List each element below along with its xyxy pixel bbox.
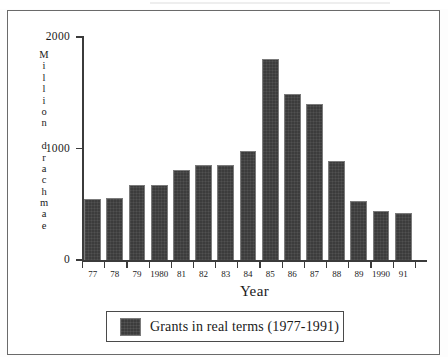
x-axis-tick	[348, 261, 349, 268]
x-axis-tick	[304, 261, 305, 268]
x-axis-tick	[393, 261, 394, 268]
bar-83	[217, 165, 234, 260]
bar-86	[284, 94, 301, 260]
x-axis-line	[82, 260, 427, 262]
bar-77	[84, 199, 101, 260]
x-axis-tick	[237, 261, 238, 268]
bar-88	[328, 161, 345, 260]
x-axis-tick-label-86: 86	[288, 270, 297, 279]
chart-legend: Grants in real terms (1977-1991)	[106, 311, 344, 342]
x-axis-tick-label-84: 84	[243, 270, 252, 279]
bar-89	[350, 201, 367, 260]
x-axis-tick-label-88: 88	[332, 270, 341, 279]
bar-81	[173, 170, 190, 260]
x-axis-tick-label-91: 91	[399, 270, 408, 279]
x-axis-tick-label-79: 79	[133, 270, 142, 279]
bar-series	[8, 11, 441, 356]
x-axis-tick	[326, 261, 327, 268]
bar-1980	[151, 185, 168, 260]
x-axis-tick-label-78: 78	[110, 270, 119, 279]
chart-figure: Million drachmae 010002000 7778791980818…	[0, 0, 448, 357]
legend-swatch-icon	[120, 318, 141, 336]
bar-79	[129, 185, 146, 260]
x-axis-tick-label-87: 87	[310, 270, 319, 279]
plot-area: Million drachmae 010002000 7778791980818…	[8, 11, 441, 356]
top-margin-strip	[0, 0, 448, 9]
bar-1990	[373, 211, 390, 260]
bar-84	[240, 151, 257, 260]
bar-78	[106, 198, 123, 260]
x-axis-tick-label-1990: 1990	[372, 270, 390, 279]
legend-label: Grants in real terms (1977-1991)	[150, 319, 339, 334]
x-axis-tick	[215, 261, 216, 268]
x-axis-tick	[370, 261, 371, 268]
x-axis-tick	[193, 261, 194, 268]
x-axis-title: Year	[82, 283, 427, 299]
x-axis-tick-label-1980: 1980	[150, 270, 168, 279]
x-axis-tick	[126, 261, 127, 268]
bar-85	[262, 59, 279, 260]
x-axis-tick-label-85: 85	[266, 270, 275, 279]
x-axis-tick	[82, 261, 83, 268]
x-axis-tick	[259, 261, 260, 268]
x-axis-tick	[171, 261, 172, 268]
x-axis-tick	[104, 261, 105, 268]
x-axis-tick-label-77: 77	[88, 270, 97, 279]
x-axis-tick-label-81: 81	[177, 270, 186, 279]
figure-frame: Million drachmae 010002000 7778791980818…	[7, 10, 440, 355]
x-axis-tick-label-89: 89	[354, 270, 363, 279]
bar-87	[306, 104, 323, 260]
x-axis-tick	[282, 261, 283, 268]
x-axis-tick	[149, 261, 150, 268]
x-axis-tick-label-83: 83	[221, 270, 230, 279]
x-axis-tick	[415, 261, 416, 268]
bar-82	[195, 165, 212, 260]
top-edge-artifact	[150, 2, 390, 4]
bar-91	[395, 213, 412, 260]
x-axis-tick-label-82: 82	[199, 270, 208, 279]
